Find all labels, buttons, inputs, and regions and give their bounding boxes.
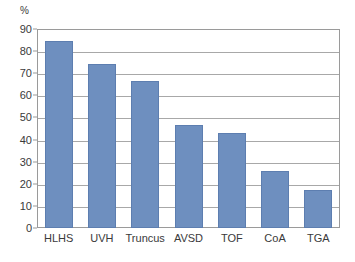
bar [175, 125, 203, 228]
bar [218, 133, 246, 228]
y-axis-tick-label: 30 [20, 156, 32, 167]
y-axis-unit-label: % [20, 6, 29, 16]
bars-layer [37, 29, 340, 228]
y-axis-tick-label: 70 [20, 68, 32, 79]
x-axis-category-label: Truncus [126, 232, 165, 245]
bar [304, 190, 332, 228]
x-axis-category-label: TGA [307, 232, 330, 245]
y-axis-tick-labels: 9080706050403020100 [0, 29, 37, 228]
bar-chart: % 9080706050403020100 HLHSUVHTruncusAVSD… [0, 0, 355, 262]
y-axis-tick-label: 40 [20, 134, 32, 145]
x-axis-category-label: UVH [90, 232, 113, 245]
y-axis-tick-label: 50 [20, 112, 32, 123]
bar [45, 41, 73, 228]
y-axis-tick-label: 60 [20, 90, 32, 101]
x-axis-category-labels: HLHSUVHTruncusAVSDTOFCoATGA [37, 232, 340, 252]
x-axis-category-label: HLHS [44, 232, 73, 245]
bar [131, 81, 159, 228]
bar [261, 171, 289, 228]
x-axis-category-label: CoA [264, 232, 285, 245]
x-axis-category-label: TOF [221, 232, 243, 245]
y-axis-tick-label: 90 [20, 24, 32, 35]
y-axis-tick-label: 10 [20, 200, 32, 211]
y-axis-tick-label: 80 [20, 46, 32, 57]
x-axis-category-label: AVSD [174, 232, 203, 245]
y-axis-tick-label: 0 [26, 223, 32, 234]
bar [88, 64, 116, 228]
y-axis-tick-label: 20 [20, 178, 32, 189]
